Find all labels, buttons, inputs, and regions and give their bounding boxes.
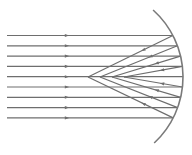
arrow-icon: [154, 61, 159, 64]
arrow-icon: [65, 65, 69, 68]
reflected-ray: [100, 77, 178, 108]
arrow-icon: [65, 85, 69, 88]
mirror-ray-diagram: [0, 0, 192, 155]
arrow-icon: [65, 55, 69, 58]
arrow-icon: [141, 103, 146, 106]
reflected-ray: [100, 46, 177, 77]
reflected-ray: [124, 77, 182, 87]
rays: [7, 34, 183, 119]
arrow-icon: [65, 96, 69, 99]
arrow-icon: [141, 48, 146, 51]
arrow-icon: [65, 116, 69, 119]
arrow-icon: [65, 75, 69, 78]
arrow-icon: [155, 89, 160, 92]
arrow-icon: [65, 44, 69, 47]
reflected-ray: [124, 66, 182, 77]
arrow-icon: [65, 106, 69, 109]
arrow-icon: [65, 34, 69, 37]
